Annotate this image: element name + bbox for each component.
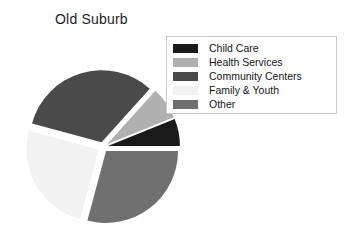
legend-label-child-care: Child Care [209,43,259,54]
legend-item-family-youth[interactable]: Family & Youth [167,83,336,97]
legend-label-other: Other [209,99,235,110]
legend-label-family-youth: Family & Youth [209,85,279,96]
legend-swatch-community-centers [173,72,198,81]
legend-swatch-child-care [173,44,198,53]
legend-label-community-centers: Community Centers [209,71,302,82]
legend-swatch-other [173,100,198,109]
legend-swatch-family-youth [173,86,198,95]
chart-legend: Child Care Health Services Community Cen… [166,36,337,114]
legend-item-child-care[interactable]: Child Care [167,41,336,55]
legend-item-health-services[interactable]: Health Services [167,55,336,69]
chart-figure: Old Suburb Child Care Health Services Co… [0,0,349,243]
pie-slice[interactable] [87,151,178,223]
pie-slice-group [27,70,180,223]
legend-item-other[interactable]: Other [167,97,336,111]
pie-slice[interactable] [27,131,99,219]
legend-swatch-health-services [173,58,198,67]
legend-label-health-services: Health Services [209,57,283,68]
legend-item-community-centers[interactable]: Community Centers [167,69,336,83]
